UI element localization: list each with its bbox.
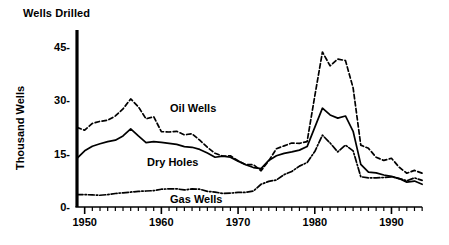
series-line-oil-wells bbox=[77, 52, 422, 173]
data-series bbox=[77, 52, 422, 195]
axes bbox=[75, 30, 422, 207]
plot-area bbox=[0, 0, 449, 245]
series-line-dry-holes bbox=[77, 108, 422, 184]
chart-figure: Wells Drilled Thousand Wells 0-15-30-45-… bbox=[0, 0, 449, 245]
axis-ticks bbox=[85, 207, 422, 214]
